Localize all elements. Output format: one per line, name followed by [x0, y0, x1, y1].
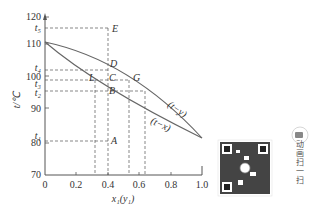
- svg-text:120: 120: [26, 11, 41, 22]
- svg-text:0.2: 0.2: [70, 179, 83, 190]
- svg-text:90: 90: [31, 103, 41, 114]
- svg-text:t₅: t₅: [35, 22, 42, 33]
- svg-text:1.0: 1.0: [196, 179, 209, 190]
- svg-text:t₁: t₁: [35, 130, 41, 141]
- point-G: G: [133, 72, 140, 83]
- point-C: C: [109, 72, 116, 83]
- y-axis-arrow-icon: [43, 13, 47, 20]
- point-E: E: [111, 23, 118, 34]
- svg-text:0.8: 0.8: [165, 179, 178, 190]
- point-L: L: [88, 72, 95, 83]
- qr-code[interactable]: [218, 140, 272, 196]
- svg-text:t₄: t₄: [35, 62, 42, 73]
- y-axis-label: t/℃: [11, 90, 22, 109]
- point-D: D: [109, 58, 118, 69]
- point-A: A: [110, 135, 118, 146]
- txy-phase-diagram: 120 110 100 90 80 70 t₅ t₄ t₃ t₂ t₁ 0 0.…: [0, 0, 313, 214]
- svg-text:70: 70: [31, 169, 41, 180]
- svg-text:t₂: t₂: [35, 87, 42, 98]
- x-axis-label: x₁(y₁): [111, 193, 135, 205]
- animation-scan-label: 动画扫一扫: [296, 140, 308, 185]
- bubble-curve-t-x: [45, 42, 202, 138]
- svg-text:0.4: 0.4: [102, 179, 115, 190]
- curve-label-t-x: (t−x): [149, 115, 173, 135]
- dew-curve-t-y: [45, 42, 202, 138]
- svg-text:0.6: 0.6: [133, 179, 146, 190]
- curve-label-t-y: (t−y): [165, 99, 189, 121]
- svg-text:110: 110: [26, 38, 41, 49]
- svg-text:0: 0: [43, 179, 48, 190]
- point-B: B: [109, 85, 115, 96]
